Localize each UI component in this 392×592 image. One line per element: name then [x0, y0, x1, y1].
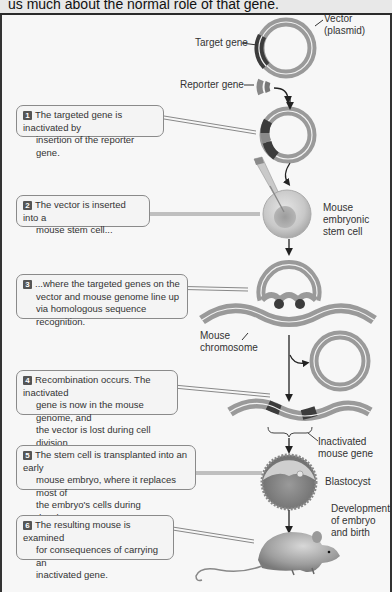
step-1-number: 1	[23, 111, 32, 120]
step-1-box: 1The targeted gene is inactivated by ins…	[16, 105, 164, 137]
homologous-alignment-icon	[202, 265, 374, 322]
step-2-text-line1: The vector is inserted into a	[23, 199, 126, 223]
development-label-line2: of embryo	[331, 515, 375, 527]
step-3-text-line1: ...where the targeted genes on the	[35, 278, 180, 289]
vector-pointer	[315, 20, 323, 26]
development-label-line1: Development	[331, 503, 390, 515]
inactivated-gene-label-line2: mouse gene	[318, 448, 373, 460]
inactivated-gene-label-line1: Inactivated	[318, 436, 366, 448]
stem-cell-label-line2: embryonic	[323, 214, 369, 226]
lost-vector-icon	[314, 335, 366, 387]
step-6-number: 6	[23, 521, 32, 530]
step-4-box: 4Recombination occurs. The inactivated g…	[16, 370, 178, 415]
step-4-number: 4	[23, 376, 32, 385]
development-label-line3: and birth	[331, 527, 370, 539]
vector-label-line2: (plasmid)	[324, 25, 365, 37]
blastocyst-icon	[262, 455, 316, 509]
arrow-down	[274, 88, 288, 100]
step-6-text-line2: for consequences of carrying an	[23, 544, 167, 569]
step-5-number: 5	[23, 451, 32, 460]
step-6-box: 6The resulting mouse is examined for con…	[16, 515, 174, 560]
step-3-text-line2: vector and mouse genome line up	[23, 291, 181, 304]
stem-cell-label-line1: Mouse	[323, 202, 353, 214]
stem-cell-icon	[263, 186, 311, 238]
step-3-box: 3...where the targeted genes on the vect…	[16, 274, 188, 319]
inactivated-plasmid-icon	[264, 111, 312, 159]
step-3-text-line3: via homologous sequence recognition.	[23, 303, 181, 328]
step-2-box: 2The vector is inserted into a mouse ste…	[16, 195, 150, 227]
step-1-text-line2: insertion of the reporter gene.	[23, 134, 157, 159]
step-1-text-line1: The targeted gene is inactivated by	[23, 109, 122, 133]
reporter-gene-label: Reporter gene	[180, 79, 244, 91]
step-5-text-line1: The stem cell is transplanted into an ea…	[23, 449, 187, 473]
chromosome-label-line1: Mouse	[200, 330, 230, 342]
target-gene-label: Target gene	[195, 37, 248, 49]
step-4-text-line1: Recombination occurs. The inactivated	[23, 374, 150, 398]
vector-label-line1: Vector	[324, 13, 352, 25]
step-5-text-line2: mouse embryo, where it replaces most of	[23, 474, 189, 499]
stem-cell-label-line3: stem cell	[323, 226, 362, 238]
step-2-text-line2: mouse stem cell...	[23, 224, 143, 237]
step-5-box: 5The stem cell is transplanted into an e…	[16, 445, 196, 490]
step-4-text-line2: gene is now in the mouse genome, and	[23, 399, 171, 424]
step-6-text-line3: inactivated gene.	[23, 569, 167, 582]
blastocyst-label: Blastocyst	[325, 476, 371, 488]
step-6-text-line1: The resulting mouse is examined	[23, 519, 131, 543]
step-2-number: 2	[23, 201, 32, 210]
vector-plasmid-icon	[259, 22, 312, 74]
reporter-gene-icon	[260, 80, 269, 94]
mouse-icon	[196, 531, 340, 581]
step-3-number: 3	[23, 280, 32, 289]
recombined-chromosome-icon	[230, 403, 370, 416]
chromosome-label-line2: chromosome	[200, 342, 258, 354]
